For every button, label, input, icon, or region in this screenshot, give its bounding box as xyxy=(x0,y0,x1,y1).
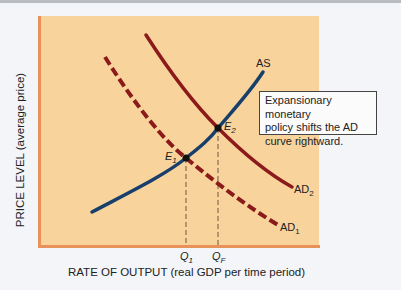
ad2-label: AD2 xyxy=(294,183,314,198)
y-axis-label: PRICE LEVEL (average price) xyxy=(14,73,26,227)
e2-label: E2 xyxy=(224,120,236,135)
x-axis-label: RATE OF OUTPUT (real GDP per time period… xyxy=(68,266,305,278)
annotation-line-1: Expansionary monetary xyxy=(265,94,376,121)
e1-label: E1 xyxy=(165,150,177,165)
annotation-box: Expansionary monetary policy shifts the … xyxy=(259,91,377,135)
annotation-line-2: policy shifts the AD xyxy=(265,121,376,135)
annotation-line-3: curve rightward. xyxy=(265,135,376,149)
q1-tick-label: Q1 xyxy=(180,250,193,265)
e1-point xyxy=(183,155,190,162)
ad1-label: AD1 xyxy=(280,221,300,236)
ad1-curve xyxy=(105,57,278,225)
qf-tick-label: QF xyxy=(212,250,225,265)
e2-point xyxy=(215,125,222,132)
as-curve xyxy=(92,72,263,212)
as-label: AS xyxy=(256,57,271,69)
